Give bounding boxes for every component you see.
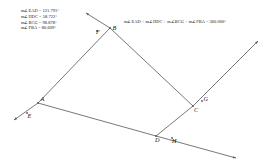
angle-measurement-2: m∠HDC = 58.722° (21, 14, 59, 20)
point-label-G: G (204, 95, 209, 102)
point-label-C: C (194, 106, 199, 113)
angle-measurement-4: m∠FBA = 80.609° (21, 25, 59, 31)
angle-measurement-list: m∠EAD = 121.791°m∠HDC = 58.722°m∠BCG = 9… (21, 8, 59, 31)
ray-DH (156, 136, 236, 158)
point-label-A: A (40, 95, 45, 102)
side-CD (156, 106, 193, 136)
quadrilateral-sides (38, 28, 193, 136)
angle-measurement-1: m∠EAD = 121.791° (21, 8, 59, 14)
side-BC (110, 28, 193, 106)
point-label-B: B (113, 24, 117, 31)
point-A[interactable] (37, 102, 39, 104)
exterior-rays (14, 13, 258, 158)
arrow-F-tip (86, 13, 89, 16)
ray-BF (86, 13, 110, 28)
side-DA (38, 103, 156, 136)
point-label-D: D (154, 136, 160, 143)
vertex-labels: ABCDEFGH (27, 24, 209, 145)
ray-AE (14, 103, 38, 120)
point-label-E: E (27, 112, 32, 119)
side-AB (38, 28, 110, 103)
point-label-F: F (95, 28, 100, 35)
point-B[interactable] (109, 27, 111, 29)
vertex-dots (26, 27, 203, 139)
geometry-canvas: ABCDEFGH m∠EAD = 121.791°m∠HDC = 58.722°… (0, 0, 271, 164)
ray-arrowheads (14, 13, 258, 158)
point-label-H: H (171, 137, 177, 144)
angle-sum-equation: m∠EAD + m∠HDC + m∠BCG + m∠FBA = 360.000° (124, 19, 226, 24)
arrow-H-tip (233, 156, 236, 158)
